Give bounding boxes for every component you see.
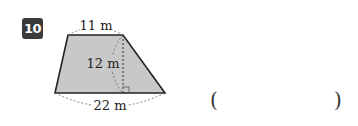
answer-close-paren: ) [334,88,342,112]
answer-open-paren: ( [210,88,218,112]
answer-field[interactable] [222,90,330,112]
height-label: 12 m [86,56,119,71]
top-label: 11 m [79,18,112,33]
bottom-label: 22 m [93,98,126,113]
